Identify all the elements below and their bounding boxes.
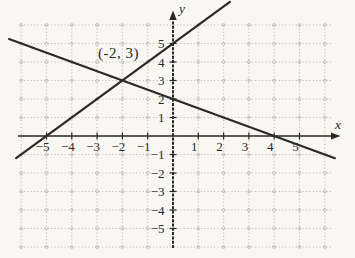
intersection-annotation: (-2, 3) bbox=[98, 45, 139, 62]
x-tick-label: 1 bbox=[191, 139, 198, 154]
axes bbox=[18, 11, 341, 249]
y-axis-arrowhead bbox=[169, 11, 176, 21]
y-tick-label: 4 bbox=[158, 55, 165, 70]
x-axis-label: x bbox=[334, 117, 341, 132]
x-axis-arrowhead bbox=[331, 132, 341, 139]
y-tick-label: 3 bbox=[158, 73, 165, 88]
y-axis-label: y bbox=[177, 1, 185, 16]
x-tick-label: 4 bbox=[267, 139, 274, 154]
coordinate-plane-figure: −5−4−3−2−11234554321−1−2−3−4−5 (-2, 3) x… bbox=[0, 0, 355, 258]
y-tick-label: −3 bbox=[151, 184, 165, 199]
x-tick-label: 3 bbox=[242, 139, 249, 154]
line-graph-svg: −5−4−3−2−11234554321−1−2−3−4−5 (-2, 3) x… bbox=[0, 0, 355, 258]
y-tick-label: −5 bbox=[151, 221, 165, 236]
y-tick-label: −2 bbox=[151, 166, 165, 181]
x-tick-label: 5 bbox=[292, 139, 299, 154]
y-tick-label: 5 bbox=[158, 36, 165, 51]
x-tick-label: 2 bbox=[216, 139, 223, 154]
x-tick-label: −3 bbox=[86, 139, 100, 154]
y-tick-label: 1 bbox=[158, 110, 165, 125]
y-tick-label: −1 bbox=[151, 147, 165, 162]
x-tick-label: −4 bbox=[61, 139, 75, 154]
x-tick-label: −2 bbox=[111, 139, 125, 154]
y-tick-label: −4 bbox=[151, 203, 165, 218]
x-tick-label: −1 bbox=[137, 139, 151, 154]
